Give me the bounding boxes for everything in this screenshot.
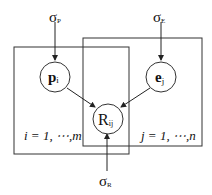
label-sigma-p: σP [49, 9, 61, 25]
plate-i-label: i = 1, ⋯,m [24, 128, 82, 143]
label-sigma-r: σR [99, 173, 112, 189]
edge-e-to-r [121, 88, 150, 107]
label-sigma-e: σE [153, 9, 165, 25]
edge-p-to-r [67, 88, 95, 107]
plate-diagram: σP σE σR pi ej Rij i = 1, ⋯,m j = 1, ⋯,n [0, 0, 212, 195]
plate-j-label: j = 1, ⋯,n [139, 128, 196, 143]
